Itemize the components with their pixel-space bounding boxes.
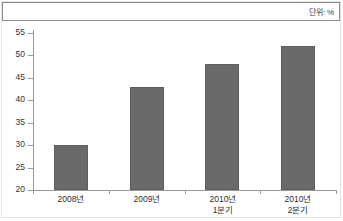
bar — [54, 145, 88, 190]
category-label-line1: 2009년 — [134, 194, 161, 204]
y-tick-label: 20 — [3, 185, 25, 194]
chart-page: 단위: % 2025303540455055 2008년2009년2010년1분… — [0, 0, 343, 221]
y-tick-label: 35 — [3, 118, 25, 127]
category-label: 2008년 — [33, 194, 109, 205]
y-tick-label: 40 — [3, 95, 25, 104]
category-label-line2: 2분기 — [260, 205, 336, 216]
category-label-line1: 2010년 — [285, 194, 312, 204]
y-tick-mark — [28, 145, 34, 146]
y-tick-label: 45 — [3, 73, 25, 82]
bar — [281, 46, 315, 190]
unit-label-box: 단위: % — [2, 2, 340, 21]
category-label: 2010년1분기 — [185, 194, 261, 216]
category-label-line2: 1분기 — [185, 205, 261, 216]
y-tick-mark — [28, 168, 34, 169]
bar — [130, 87, 164, 190]
category-label: 2010년2분기 — [260, 194, 336, 216]
y-tick-mark — [28, 78, 34, 79]
y-tick-mark — [28, 100, 34, 101]
unit-label: 단위: % — [309, 6, 334, 17]
category-label-line1: 2008년 — [58, 194, 85, 204]
y-tick-mark — [28, 123, 34, 124]
y-tick-label: 55 — [3, 28, 25, 37]
x-tick-mark — [336, 190, 337, 194]
y-tick-label: 50 — [3, 50, 25, 59]
y-tick-label: 30 — [3, 140, 25, 149]
bar — [205, 64, 239, 190]
y-tick-mark — [28, 33, 34, 34]
y-tick-mark — [28, 55, 34, 56]
category-label-line1: 2010년 — [210, 194, 237, 204]
category-label: 2009년 — [109, 194, 185, 205]
y-tick-label: 25 — [3, 163, 25, 172]
